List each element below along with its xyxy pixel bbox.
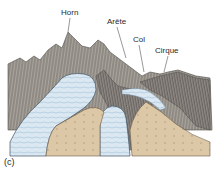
horn-leader-line [68,18,70,32]
horn-label: Horn [61,9,78,17]
panel-label: (c) [4,158,15,167]
col-label: Col [133,36,145,44]
arete-leader-line [117,27,126,58]
cirque-leader-line [164,56,168,72]
glacial-landforms-diagram: Horn Arête Col Cirque (c) [0,0,223,172]
cirque-label: Cirque [155,47,179,55]
col-leader-line [139,45,144,72]
arete-label: Arête [107,18,126,26]
